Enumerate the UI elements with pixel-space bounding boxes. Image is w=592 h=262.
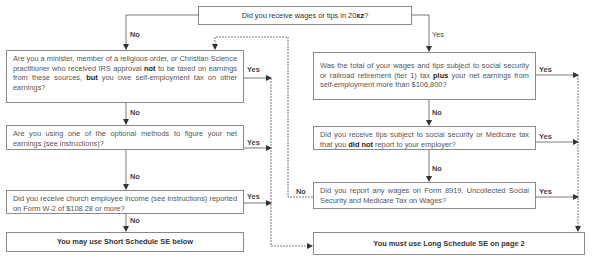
question-wages-total: Was the total of your wages and tips sub… bbox=[313, 52, 536, 100]
question-form-8919: Did you report any wages on Form 8919, U… bbox=[313, 182, 536, 209]
outcome-long-schedule: You must use Long Schedule SE on page 2 bbox=[313, 232, 585, 255]
form8919-no-label: No bbox=[296, 187, 306, 196]
question-text: report to your employer? bbox=[373, 140, 456, 149]
question-text: Are you using one of the optional method… bbox=[13, 129, 237, 148]
church-no-label: No bbox=[130, 216, 140, 225]
question-church-income: Did you receive church employee income (… bbox=[6, 190, 244, 214]
tips-no-label: No bbox=[432, 164, 442, 173]
emphasis-text: but bbox=[86, 73, 98, 82]
optional-no-label: No bbox=[130, 172, 140, 181]
start-no-label: No bbox=[130, 30, 140, 39]
start-question-prefix: Did you receive wages or tips in 20 bbox=[242, 11, 357, 20]
question-optional-methods: Are you using one of the optional method… bbox=[6, 125, 244, 150]
emphasis-text: plus bbox=[433, 71, 448, 80]
start-question-text: Did you receive wages or tips in 20xz? bbox=[242, 11, 369, 21]
start-yes-label: Yes bbox=[432, 30, 444, 39]
start-question-box: Did you receive wages or tips in 20xz? bbox=[198, 6, 412, 25]
start-question-suffix: ? bbox=[364, 11, 368, 20]
question-text: Did you report any wages on Form 8919, U… bbox=[320, 186, 529, 205]
form8919-yes-label: Yes bbox=[539, 187, 552, 196]
minister-yes-label: Yes bbox=[247, 65, 260, 74]
question-text: Did you receive church employee income (… bbox=[13, 194, 237, 213]
church-yes-label: Yes bbox=[247, 192, 260, 201]
optional-yes-label: Yes bbox=[247, 138, 260, 147]
wages-total-no-label: No bbox=[432, 108, 442, 117]
wages-total-yes-label: Yes bbox=[539, 65, 552, 74]
outcome-short-schedule: You may use Short Schedule SE below bbox=[6, 232, 244, 252]
question-unreported-tips: Did you receive tips subject to social s… bbox=[313, 126, 536, 150]
start-question-year: xz bbox=[356, 11, 364, 20]
tips-yes-label: Yes bbox=[539, 132, 552, 141]
question-minister: Are you a minister, member of a religiou… bbox=[6, 50, 244, 103]
minister-no-label: No bbox=[130, 108, 140, 117]
emphasis-text: did not bbox=[348, 140, 373, 149]
emphasis-text: not bbox=[144, 64, 156, 73]
